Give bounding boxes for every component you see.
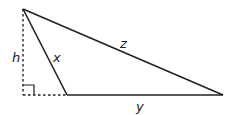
label-z: z <box>119 36 128 51</box>
label-h: h <box>12 50 20 65</box>
right-angle-marker <box>23 85 34 95</box>
label-x: x <box>52 50 61 65</box>
label-y: y <box>135 99 144 114</box>
triangle-diagram: h x z y <box>0 0 233 115</box>
